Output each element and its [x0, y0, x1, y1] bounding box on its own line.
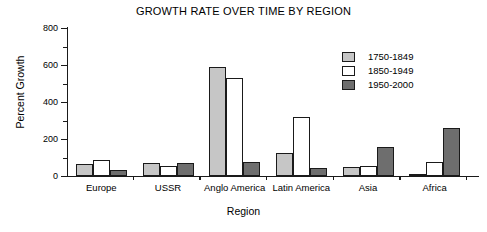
bar-asia-1750-1849: [343, 167, 360, 176]
bar-latin-america-1750-1849: [276, 153, 293, 176]
bar-ussr-1750-1849: [143, 163, 160, 176]
category-label-latin-america: Latin America: [273, 182, 331, 193]
category-label-anglo-america: Anglo America: [204, 182, 265, 193]
y-tick-label-800: 800: [28, 24, 58, 33]
x-tick-0: [133, 176, 134, 180]
x-axis-title: Region: [0, 205, 487, 217]
x-tick-2: [266, 176, 267, 180]
category-label-europe: Europe: [86, 182, 117, 193]
y-tick-label-200: 200: [28, 135, 58, 144]
legend-item-1850-1949: 1850-1949: [342, 64, 413, 77]
bar-anglo-america-1950-2000: [243, 162, 260, 176]
x-tick-5: [466, 176, 467, 180]
legend-label-1950-2000: 1950-2000: [368, 79, 413, 90]
bar-africa-1850-1949: [426, 162, 443, 176]
bar-anglo-america-1850-1949: [226, 78, 243, 176]
legend-label-1850-1949: 1850-1949: [368, 65, 413, 76]
x-tick-4: [399, 176, 400, 180]
legend-swatch-icon-1750-1849: [342, 52, 355, 62]
x-tick-3: [333, 176, 334, 180]
category-label-asia: Asia: [359, 182, 377, 193]
y-axis-tick-labels: 0200400600800: [22, 0, 58, 232]
legend-swatch-icon-1850-1949: [342, 66, 355, 76]
bar-ussr-1950-2000: [177, 163, 194, 176]
y-axis-title: Percent Growth: [14, 32, 26, 152]
bar-europe-1850-1949: [93, 160, 110, 176]
bar-europe-1950-2000: [110, 170, 127, 176]
bar-europe-1750-1849: [76, 164, 93, 176]
bar-asia-1850-1949: [360, 166, 377, 176]
bar-africa-1750-1849: [409, 174, 426, 176]
bar-anglo-america-1750-1849: [209, 67, 226, 176]
category-label-africa: Africa: [423, 182, 447, 193]
growth-rate-bar-chart: GROWTH RATE OVER TIME BY REGION 02004006…: [0, 0, 487, 232]
y-tick-200: [61, 139, 68, 140]
y-tick-400: [61, 102, 68, 103]
y-tick-600: [61, 65, 68, 66]
y-tick-label-600: 600: [28, 61, 58, 70]
y-tick-label-0: 0: [28, 172, 58, 181]
legend-item-1750-1849: 1750-1849: [342, 50, 413, 63]
bar-ussr-1850-1949: [160, 166, 177, 176]
legend: 1750-18491850-19491950-2000: [342, 50, 413, 92]
bar-africa-1950-2000: [443, 128, 460, 176]
category-label-ussr: USSR: [155, 182, 181, 193]
y-tick-0: [61, 176, 68, 177]
y-tick-800: [61, 28, 68, 29]
bar-latin-america-1950-2000: [310, 168, 327, 176]
y-tick-label-400: 400: [28, 98, 58, 107]
bar-latin-america-1850-1949: [293, 117, 310, 176]
bar-asia-1950-2000: [377, 147, 394, 176]
chart-title: GROWTH RATE OVER TIME BY REGION: [0, 5, 487, 17]
x-axis-line: [67, 176, 479, 177]
legend-swatch-icon-1950-2000: [342, 80, 355, 90]
x-tick-1: [199, 176, 200, 180]
legend-label-1750-1849: 1750-1849: [368, 51, 413, 62]
legend-item-1950-2000: 1950-2000: [342, 78, 413, 91]
